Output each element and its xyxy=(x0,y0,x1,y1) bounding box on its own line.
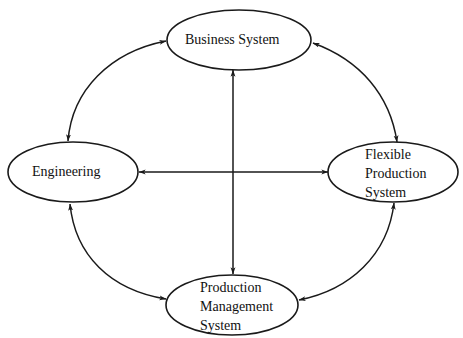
label-business-system: Business System xyxy=(185,30,280,49)
edge-engineering-production-management xyxy=(70,204,166,299)
edge-business-flexible xyxy=(313,43,397,142)
label-production-management-system: Production Management System xyxy=(200,278,273,335)
label-flexible-production-system: Flexible Production System xyxy=(365,145,426,202)
label-engineering: Engineering xyxy=(32,162,100,181)
edge-flexible-production-management xyxy=(299,203,394,300)
edge-business-engineering xyxy=(68,41,166,141)
